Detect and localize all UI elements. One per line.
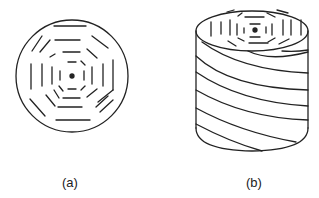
panel-b-cylinder — [196, 10, 308, 151]
helical-lines — [196, 42, 308, 151]
ring-3 — [40, 36, 108, 107]
panel-a-label: (a) — [62, 175, 78, 190]
panel-b-label: (b) — [246, 175, 262, 190]
figure-canvas — [0, 0, 319, 198]
center-dot — [70, 74, 74, 78]
top-center-dot — [253, 28, 257, 32]
panel-a-cross-section — [16, 20, 128, 132]
ring-2 — [50, 49, 97, 98]
